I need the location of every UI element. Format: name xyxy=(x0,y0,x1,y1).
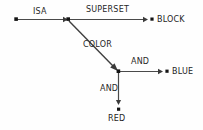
edge-label-superset: SUPERSET xyxy=(86,5,129,14)
edge-and-blue-arrowhead xyxy=(158,69,163,74)
edge-isa xyxy=(17,17,68,22)
node-superset-hub-dot xyxy=(66,17,70,21)
node-color-hub-dot xyxy=(117,69,121,73)
semantic-network-diagram: ISA SUPERSET COLOR AND AND BLOCK BLUE RE… xyxy=(0,0,203,130)
node-origin-dot xyxy=(14,17,18,21)
node-label-red: RED xyxy=(108,114,125,123)
edge-superset xyxy=(69,17,148,22)
edge-label-and-blue: AND xyxy=(131,57,149,66)
node-label-blue: BLUE xyxy=(172,67,193,76)
edge-and-blue xyxy=(119,69,163,74)
node-block-dot xyxy=(150,18,153,21)
node-red-dot xyxy=(117,108,120,111)
edge-label-isa: ISA xyxy=(33,7,47,16)
node-blue-dot xyxy=(165,70,168,73)
edge-label-color: COLOR xyxy=(83,40,112,49)
edge-and-red-arrowhead xyxy=(116,100,121,105)
node-label-block: BLOCK xyxy=(157,15,185,24)
edge-label-and-red: AND xyxy=(100,84,118,93)
edge-superset-arrowhead xyxy=(143,17,148,22)
